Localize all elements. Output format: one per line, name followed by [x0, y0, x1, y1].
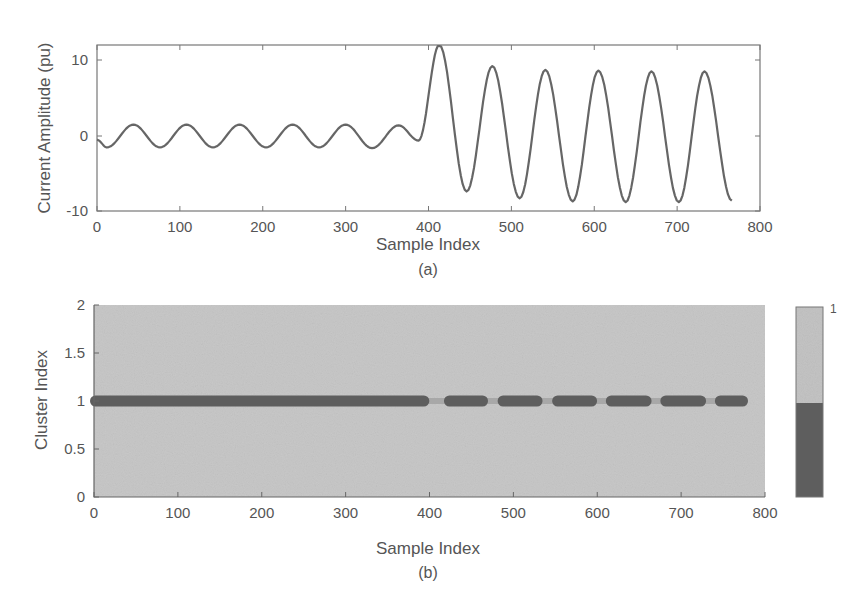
colorbar-dark-segment — [796, 403, 823, 497]
panel-b-cluster-plot: 0100200300400500600700800 00.511.52 Samp… — [32, 296, 837, 581]
y-tick-label: 2 — [77, 296, 85, 313]
cluster-marker-segment — [444, 396, 488, 407]
x-tick-label: 500 — [501, 504, 526, 521]
cluster-marker-segment — [552, 396, 597, 407]
x-tick-label: 100 — [167, 218, 192, 235]
panel-b-y-axis-label: Cluster Index — [32, 349, 51, 450]
cluster-marker-segment — [715, 396, 748, 407]
panel-a-y-axis-label: Current Amplitude (pu) — [35, 42, 54, 213]
figure: 0100200300400500600700800 -10010 Sample … — [0, 0, 865, 609]
cluster-marker-segment — [660, 396, 706, 407]
panel-b-caption: (b) — [418, 564, 438, 581]
x-tick-label: 0 — [90, 504, 98, 521]
y-tick-label: -10 — [66, 202, 88, 219]
x-tick-label: 300 — [333, 218, 358, 235]
x-tick-label: 200 — [249, 504, 274, 521]
panel-a-current-plot: 0100200300400500600700800 -10010 Sample … — [35, 42, 773, 278]
y-tick-label: 0 — [77, 488, 85, 505]
y-tick-label: 10 — [71, 51, 88, 68]
x-tick-label: 400 — [417, 504, 442, 521]
x-tick-label: 200 — [250, 218, 275, 235]
x-tick-label: 800 — [752, 504, 777, 521]
x-tick-label: 600 — [585, 504, 610, 521]
cluster-assignment-markers — [90, 396, 748, 407]
y-tick-label: 1 — [77, 392, 85, 409]
x-tick-label: 500 — [499, 218, 524, 235]
x-tick-label: 700 — [669, 504, 694, 521]
x-tick-label: 300 — [333, 504, 358, 521]
y-tick-label: 0.5 — [64, 440, 85, 457]
cluster-marker-segment — [498, 396, 543, 407]
colorbar-tick-label: 1 — [830, 302, 837, 316]
colorbar-light-segment — [796, 307, 823, 403]
x-tick-label: 800 — [747, 218, 772, 235]
cluster-marker-segment — [90, 396, 429, 407]
colorbar: 1 — [796, 302, 837, 497]
x-tick-label: 400 — [416, 218, 441, 235]
x-tick-label: 100 — [165, 504, 190, 521]
panel-a-axes-frame — [97, 45, 760, 211]
x-tick-label: 0 — [93, 218, 101, 235]
panel-b-x-axis-label: Sample Index — [376, 539, 480, 558]
panel-a-x-axis-label: Sample Index — [376, 235, 480, 254]
cluster-marker-segment — [606, 396, 652, 407]
x-tick-label: 700 — [665, 218, 690, 235]
x-tick-label: 600 — [582, 218, 607, 235]
panel-a-caption: (a) — [418, 261, 438, 278]
y-tick-label: 0 — [80, 127, 88, 144]
y-tick-label: 1.5 — [64, 344, 85, 361]
